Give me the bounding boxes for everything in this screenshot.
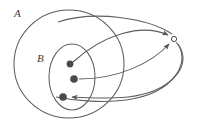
point-1 — [67, 61, 74, 68]
arrow-target-to-point3 — [72, 44, 183, 98]
set-mapping-diagram: A B — [0, 0, 199, 123]
target-point — [171, 36, 176, 41]
set-label-a: A — [14, 8, 21, 19]
point-3 — [59, 93, 67, 101]
set-label-b: B — [37, 53, 44, 64]
diagram-canvas — [0, 0, 199, 123]
point-2 — [70, 75, 78, 83]
lower-sweep-curve — [56, 42, 182, 101]
